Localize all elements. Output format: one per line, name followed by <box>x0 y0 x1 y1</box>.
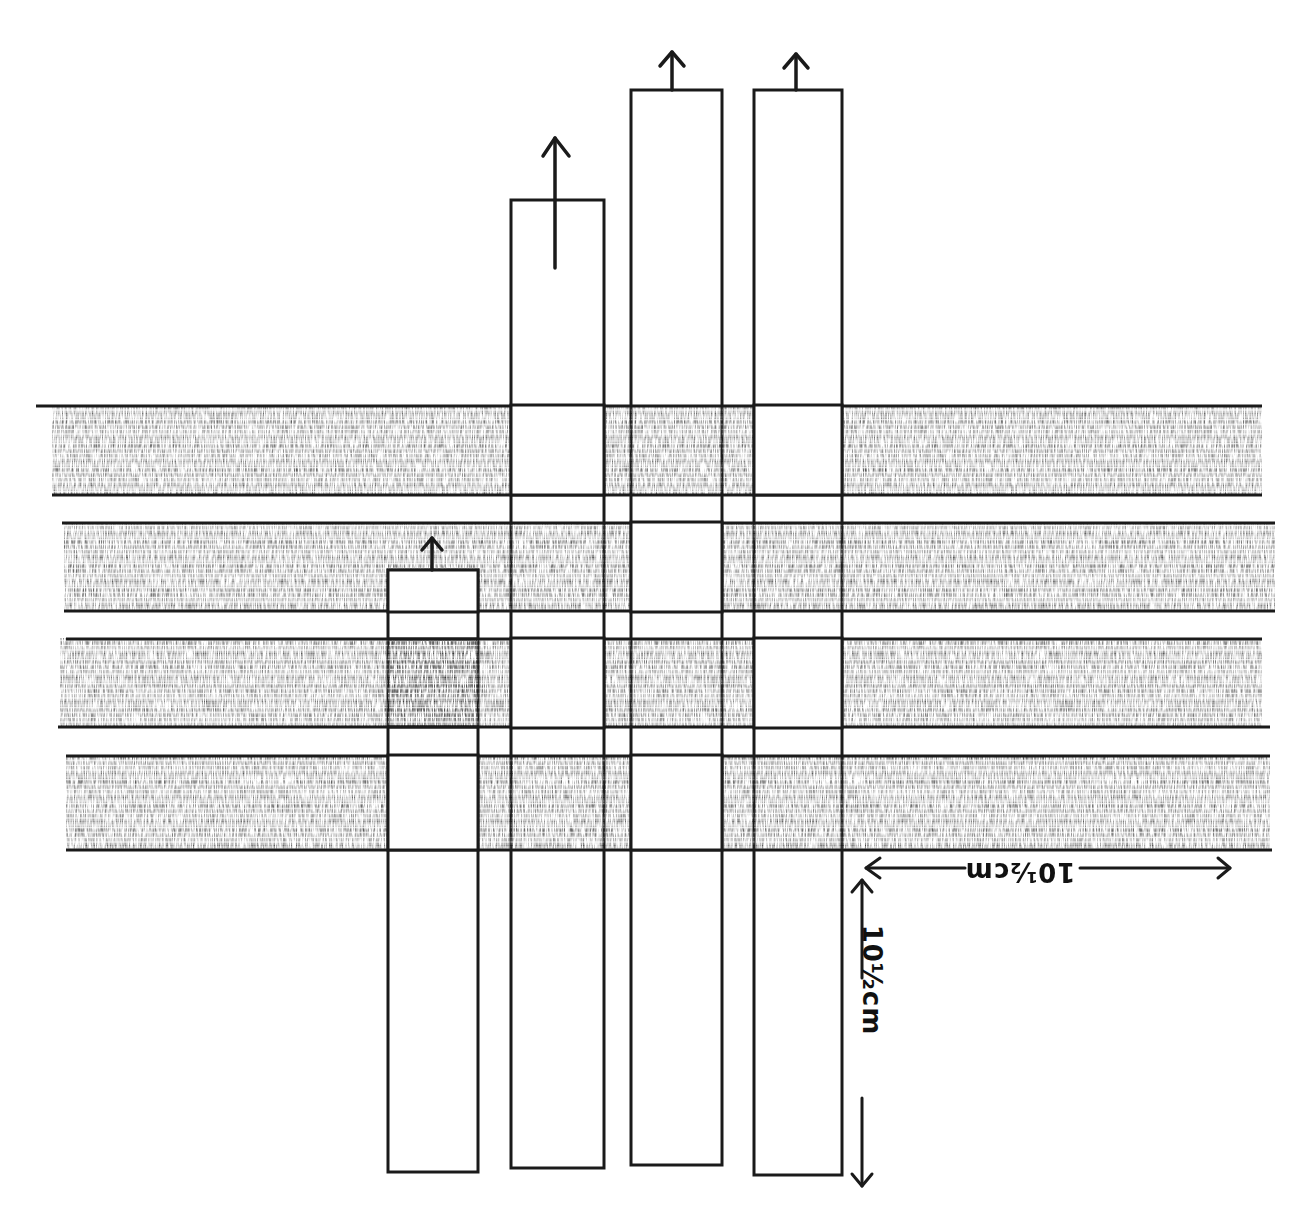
warp-1-over-weft-4 <box>388 755 478 850</box>
warp-2-over-weft-3 <box>511 638 604 728</box>
warp-2-over-weft-1 <box>511 405 604 495</box>
horizontal-dimension-label: 10½cm <box>960 852 1080 892</box>
warp-4-over-weft-3 <box>754 638 842 728</box>
weft-strip-3 <box>58 638 1270 728</box>
warp-1-over-weft-2-window <box>388 570 478 612</box>
warp-strip-3 <box>631 90 722 1165</box>
warp-4-over-weft-1 <box>754 405 842 495</box>
warp-3-over-weft-4 <box>631 755 722 850</box>
weft-over-fix <box>388 638 478 728</box>
weave-diagram <box>0 0 1312 1219</box>
vertical-dimension-label: 10½cm <box>852 920 892 1040</box>
arrow-up-icon <box>784 54 808 90</box>
warp-3-over-weft-2 <box>631 522 722 612</box>
warp-strips-under <box>388 90 842 1175</box>
dimension-lines <box>852 858 1230 1186</box>
weft-strip-1 <box>36 405 1262 495</box>
warp-strip-4 <box>754 90 842 1175</box>
arrow-up-icon <box>660 52 684 90</box>
